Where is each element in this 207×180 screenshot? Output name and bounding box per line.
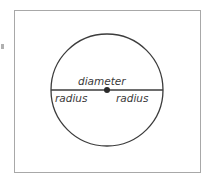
diameter-label: diameter — [78, 76, 126, 87]
center-point — [104, 87, 110, 93]
radius-label-left: radius — [55, 93, 87, 104]
circle-diagram — [0, 0, 207, 180]
radius-label-right: radius — [116, 93, 148, 104]
